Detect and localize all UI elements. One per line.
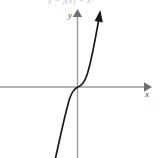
plot-area — [0, 0, 159, 158]
y-axis-label: y — [68, 11, 72, 20]
x-axis-label: x — [145, 90, 149, 99]
y-axis-arrow-icon — [73, 9, 82, 17]
cubic-function-figure: y = f(x) = x³ y x — [0, 0, 159, 158]
curve-arrow-icon — [95, 10, 103, 22]
